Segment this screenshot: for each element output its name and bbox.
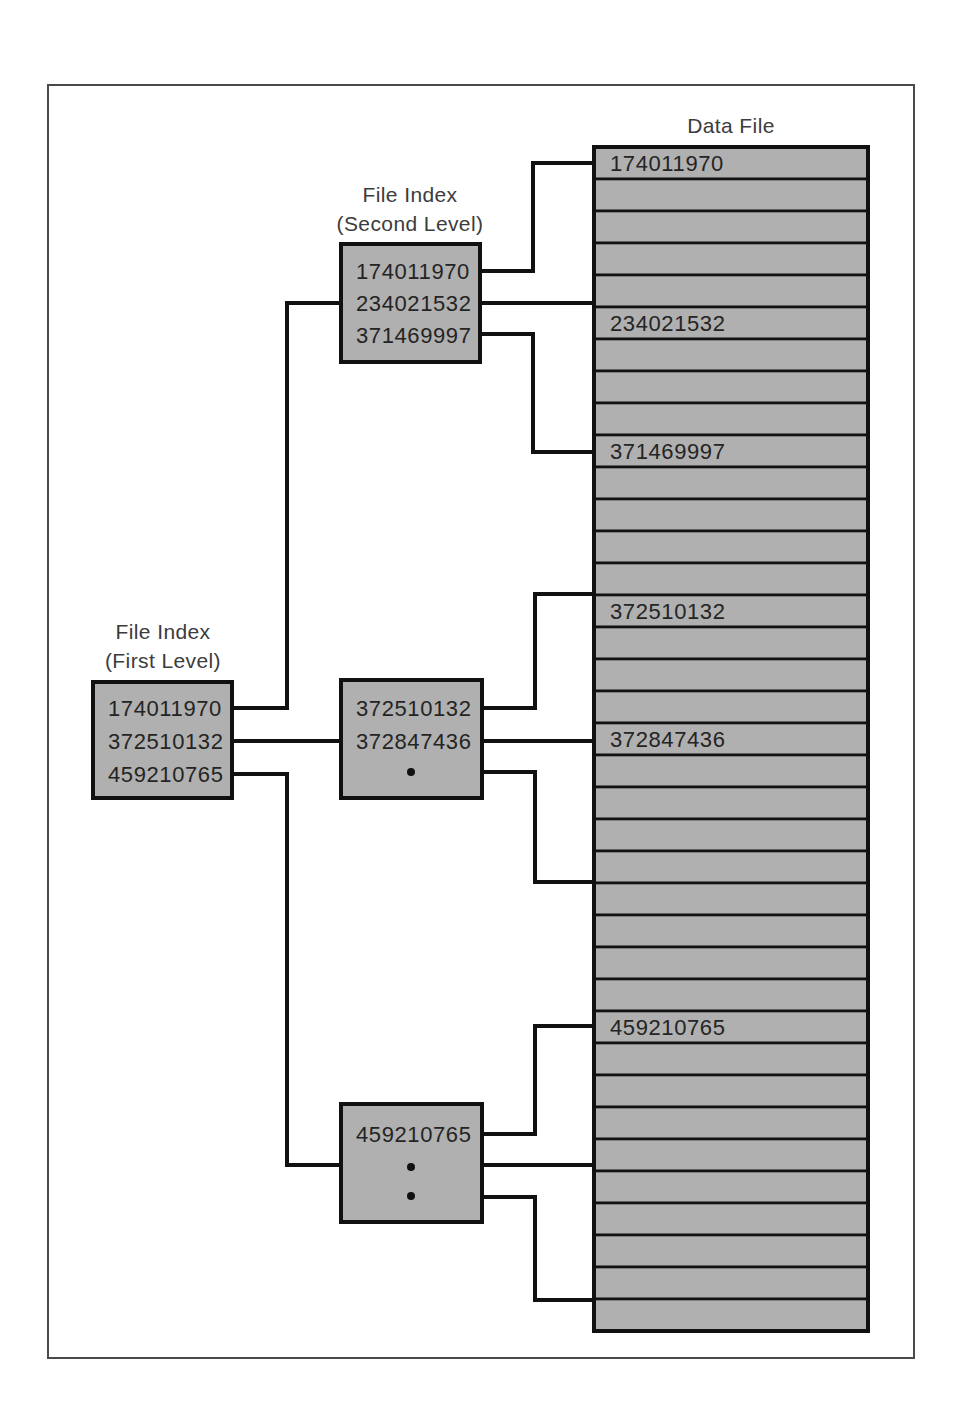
table-row xyxy=(594,627,868,659)
first-level-index-entry: 459210765 xyxy=(108,762,224,787)
table-row xyxy=(594,1107,868,1139)
first-level-index-caption-line2: (First Level) xyxy=(105,649,221,672)
data-file-record-label: 371469997 xyxy=(610,439,726,464)
table-row xyxy=(594,947,868,979)
ellipsis-dot-icon xyxy=(407,1163,415,1171)
connector-level1-row3-to-index-bottom xyxy=(232,774,341,1165)
connector-index-bottom-row1-to-datafile xyxy=(482,1026,594,1134)
table-row xyxy=(594,1203,868,1235)
connector-index-top-row1-to-datafile xyxy=(480,163,594,271)
second-level-index-entry: 372510132 xyxy=(356,696,472,721)
table-row xyxy=(594,467,868,499)
table-row xyxy=(594,1267,868,1299)
table-row xyxy=(594,403,868,435)
table-row xyxy=(594,563,868,595)
table-row xyxy=(594,1043,868,1075)
first-level-index-entry: 174011970 xyxy=(108,696,222,721)
table-row xyxy=(594,339,868,371)
table-row xyxy=(594,851,868,883)
table-row xyxy=(594,371,868,403)
data-file-record-label: 234021532 xyxy=(610,311,726,336)
second-level-index-top: File Index (Second Level) 174011970 2340… xyxy=(337,183,484,362)
ellipsis-dot-icon xyxy=(407,768,415,776)
table-row xyxy=(594,179,868,211)
connector-index-top-row3-to-datafile xyxy=(480,334,594,452)
second-level-index-caption-line2: (Second Level) xyxy=(337,212,484,235)
second-level-index-entry: 371469997 xyxy=(356,323,472,348)
table-row xyxy=(594,979,868,1011)
second-level-index-entry: 459210765 xyxy=(356,1122,472,1147)
table-row xyxy=(594,787,868,819)
connector-index-middle-row1-to-datafile xyxy=(482,594,594,708)
table-row xyxy=(594,1075,868,1107)
ellipsis-dot-icon xyxy=(407,1192,415,1200)
table-row xyxy=(594,1299,868,1331)
first-level-index: File Index (First Level) 174011970 37251… xyxy=(93,620,232,798)
data-file-record-label: 372847436 xyxy=(610,727,726,752)
table-row xyxy=(594,1235,868,1267)
table-row xyxy=(594,211,868,243)
table-row xyxy=(594,915,868,947)
second-level-index-caption-line1: File Index xyxy=(362,183,457,206)
data-file-record-label: 459210765 xyxy=(610,1015,726,1040)
table-row xyxy=(594,691,868,723)
second-level-index-bottom: 459210765 xyxy=(341,1104,482,1222)
connector-level1-row1-to-index-top xyxy=(232,303,341,708)
second-level-index-middle: 372510132 372847436 xyxy=(341,680,482,798)
table-row xyxy=(594,499,868,531)
first-level-index-entry: 372510132 xyxy=(108,729,224,754)
data-file-record-label: 174011970 xyxy=(610,151,724,176)
table-row xyxy=(594,819,868,851)
connector-index-bottom-row3-to-datafile xyxy=(482,1197,594,1300)
table-row xyxy=(594,659,868,691)
table-row xyxy=(594,1139,868,1171)
table-row xyxy=(594,755,868,787)
first-level-index-caption-line1: File Index xyxy=(115,620,210,643)
data-file-record-label: 372510132 xyxy=(610,599,726,624)
file-index-diagram: Data File xyxy=(0,0,963,1424)
table-row xyxy=(594,1171,868,1203)
connector-index-middle-row3-to-datafile xyxy=(482,772,594,882)
table-row xyxy=(594,883,868,915)
table-row xyxy=(594,243,868,275)
second-level-index-entry: 372847436 xyxy=(356,729,472,754)
data-file: Data File xyxy=(594,114,868,1331)
table-row xyxy=(594,275,868,307)
table-row xyxy=(594,531,868,563)
second-level-index-entry: 234021532 xyxy=(356,291,472,316)
second-level-index-entry: 174011970 xyxy=(356,259,470,284)
data-file-caption: Data File xyxy=(687,114,775,137)
